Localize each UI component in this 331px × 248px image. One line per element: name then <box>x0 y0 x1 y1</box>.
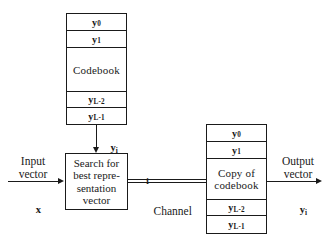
decoder-codebook-entry-1: y1 <box>207 142 266 159</box>
search-block-box: Search for best repre- sentation vector <box>65 153 128 210</box>
output-symbol-subscript: i <box>305 209 307 217</box>
input-symbol-label: x <box>6 191 60 229</box>
entry-subscript: 0 <box>237 131 241 139</box>
channel-label-text: Channel <box>154 205 192 217</box>
decoder-codebook-entry-0: y0 <box>207 125 266 142</box>
search-line-3: vector <box>83 194 110 206</box>
input-label-line2: vector <box>19 168 48 180</box>
decoder-codebook-entry-3: yL-1 <box>207 216 266 233</box>
encoder-codebook-entry-2: yL-2 <box>67 92 126 108</box>
decoder-label-line1: Copy of <box>218 167 255 179</box>
input-arrow-line <box>8 181 58 182</box>
encoder-codebook-entry-0: y0 <box>67 14 126 31</box>
decoder-label-line2: codebook <box>214 179 258 191</box>
search-line-0: Search for <box>74 157 120 169</box>
entry-subscript: L-2 <box>233 206 244 214</box>
entry-subscript: 1 <box>97 37 101 45</box>
search-line-2: sentation <box>77 182 117 194</box>
decoder-codebook-entry-2: yL-2 <box>207 200 266 216</box>
encoder-codebook-entry-3: yL-1 <box>67 108 126 124</box>
diagram-canvas: y0 y1 Codebook yL-2 yL-1 yi Search for b… <box>0 0 331 248</box>
entry-subscript: L-1 <box>93 114 104 122</box>
decoder-codebook-box: y0 y1 Copy of codebook yL-2 yL-1 <box>206 124 267 234</box>
search-block-text: Search for best repre- sentation vector <box>66 154 127 209</box>
entry-subscript: L-2 <box>93 98 104 106</box>
channel-index-symbol: i <box>146 176 149 186</box>
input-symbol: x <box>36 204 41 215</box>
decoder-codebook-center-label: Copy of codebook <box>207 159 266 200</box>
entry-subscript: L-1 <box>233 223 244 231</box>
encoder-codebook-center-label: Codebook <box>67 48 126 92</box>
output-label-line2: vector <box>284 168 313 180</box>
codebook-label-text: Codebook <box>73 64 120 76</box>
output-arrow-line <box>267 181 317 182</box>
input-vector-label: Input vector <box>6 155 60 180</box>
entry-subscript: 0 <box>97 20 101 28</box>
codebook-to-search-line <box>96 125 97 147</box>
channel-label: Channel <box>130 192 204 230</box>
entry-subscript: 1 <box>237 148 241 156</box>
input-label-line1: Input <box>21 155 45 167</box>
output-symbol-label: yi <box>269 191 327 230</box>
label-symbol: y <box>111 142 116 153</box>
output-label-line1: Output <box>282 155 314 167</box>
output-vector-label: Output vector <box>269 155 327 180</box>
encoder-codebook-entry-1: y1 <box>67 31 126 48</box>
encoder-codebook-box: y0 y1 Codebook yL-2 yL-1 <box>66 13 127 125</box>
search-line-1: best repre- <box>73 169 120 181</box>
